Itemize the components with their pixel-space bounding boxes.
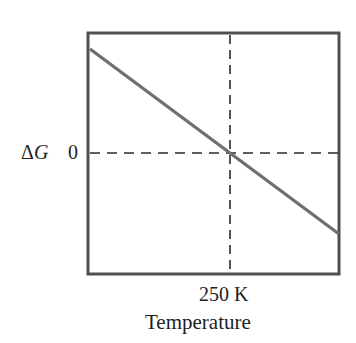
y-tick-zero: 0 <box>68 142 78 162</box>
chart-plot <box>0 0 356 343</box>
delta-g-line <box>90 49 339 234</box>
y-axis-label: ΔG <box>21 142 48 162</box>
x-axis-label: Temperature <box>145 312 251 333</box>
g-variable: G <box>34 141 48 163</box>
delta-symbol: Δ <box>21 141 34 163</box>
x-tick-250k: 250 K <box>199 284 248 304</box>
